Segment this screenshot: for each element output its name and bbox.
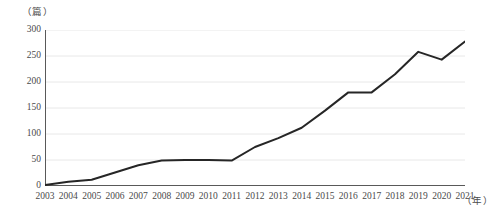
x-tick-label: 2020 (432, 192, 451, 202)
x-tick-label: 2018 (386, 192, 405, 202)
y-tick-label: 100 (15, 129, 41, 139)
gridlines (45, 30, 465, 160)
y-tick-label: 50 (15, 155, 41, 165)
x-tick-label: 2010 (199, 192, 218, 202)
plot-area (45, 30, 465, 186)
x-tick-label: 2017 (362, 192, 381, 202)
line-chart-figure: （篇） 050100150200250300 20032004200520062… (0, 0, 500, 215)
y-tick-label: 200 (15, 77, 41, 87)
y-axis-unit-label: （篇） (22, 4, 53, 18)
x-tick-label: 2008 (152, 192, 171, 202)
x-tick-label: 2005 (82, 192, 101, 202)
x-tick-label: 2009 (176, 192, 195, 202)
x-axis-tick-labels: 2003200420052006200720082009201020112012… (45, 192, 465, 206)
x-tick-label: 2012 (246, 192, 265, 202)
y-tick-label: 150 (15, 103, 41, 113)
x-tick-label: 2019 (409, 192, 428, 202)
x-tick-label: 2003 (36, 192, 55, 202)
data-series-line (45, 41, 465, 185)
x-tick-label: 2014 (292, 192, 311, 202)
chart-plot-svg (45, 30, 465, 186)
x-tick-label: 2016 (339, 192, 358, 202)
x-tick-label: 2015 (316, 192, 335, 202)
x-axis-unit-label: （年） (462, 193, 493, 207)
y-axis-tick-labels: 050100150200250300 (11, 30, 41, 186)
x-tick-label: 2007 (129, 192, 148, 202)
y-tick-label: 0 (15, 181, 41, 191)
x-tick-label: 2013 (269, 192, 288, 202)
y-tick-label: 250 (15, 51, 41, 61)
x-tick-label: 2011 (222, 192, 241, 202)
y-tick-label: 300 (15, 25, 41, 35)
x-tick-label: 2006 (106, 192, 125, 202)
x-tick-label: 2004 (59, 192, 78, 202)
